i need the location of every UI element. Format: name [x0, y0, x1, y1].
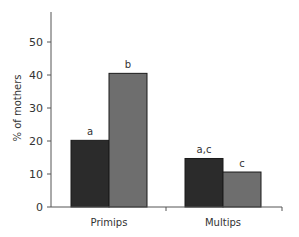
bar-significance-label: b [125, 59, 131, 70]
y-tick-label: 10 [29, 168, 43, 181]
bar-significance-label: a,c [197, 144, 212, 155]
y-axis-label: % of mothers [12, 74, 23, 141]
bars: aba,cc [71, 59, 261, 207]
bar-significance-label: a [87, 126, 93, 137]
y-tick-label: 50 [29, 36, 43, 49]
x-category-label: Primips [91, 217, 128, 228]
y-tick-label: 20 [29, 135, 43, 148]
bar [223, 172, 261, 207]
bar-significance-label: c [239, 158, 245, 169]
y-tick-label: 30 [29, 102, 43, 115]
bar [71, 140, 109, 207]
y-tick-label: 40 [29, 69, 43, 82]
bar [185, 158, 223, 207]
bar [109, 73, 147, 207]
y-tick-label: 0 [36, 201, 43, 214]
y-axis: 01020304050 [29, 12, 51, 214]
x-axis: PrimipsMultips [51, 207, 282, 228]
x-category-label: Multips [205, 217, 241, 228]
bar-chart: aba,cc 01020304050 PrimipsMultips % of m… [0, 0, 299, 237]
